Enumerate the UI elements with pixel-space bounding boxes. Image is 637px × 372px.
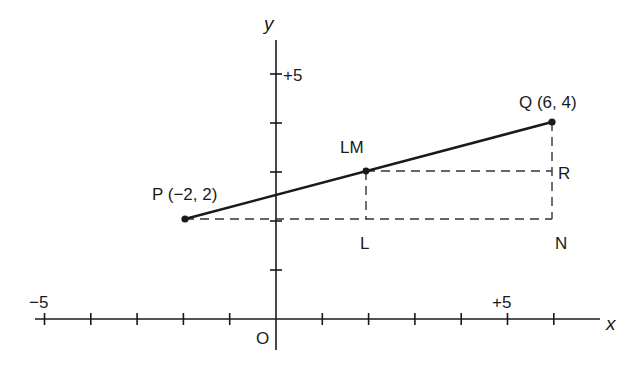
point-lm (363, 168, 370, 175)
x-tick-label-plus5: +5 (492, 293, 511, 312)
point-lm-label: LM (340, 138, 364, 157)
point-q (548, 118, 555, 125)
point-r-label: R (558, 164, 570, 183)
point-l-label: L (360, 234, 369, 253)
y-tick-label-plus5: +5 (283, 66, 302, 85)
x-tick-label-minus5: −5 (29, 293, 48, 312)
origin-label: O (256, 329, 269, 348)
coordinate-diagram: y x O +5 −5 +5 P (−2, 2) LM Q (6, 4) L N… (0, 0, 637, 372)
point-q-label: Q (6, 4) (519, 93, 577, 112)
x-axis-label: x (605, 313, 617, 334)
point-n-label: N (555, 234, 567, 253)
point-p (181, 215, 188, 222)
point-p-label: P (−2, 2) (152, 185, 217, 204)
axes (35, 40, 600, 350)
y-axis-label: y (262, 13, 275, 34)
